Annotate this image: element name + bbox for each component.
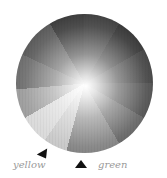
wheel-center-glow [16, 14, 153, 153]
green-label: green [98, 159, 127, 170]
yellow-label: yellow [13, 159, 46, 170]
green-pointer-icon [75, 160, 87, 168]
color-wheel [16, 14, 153, 153]
